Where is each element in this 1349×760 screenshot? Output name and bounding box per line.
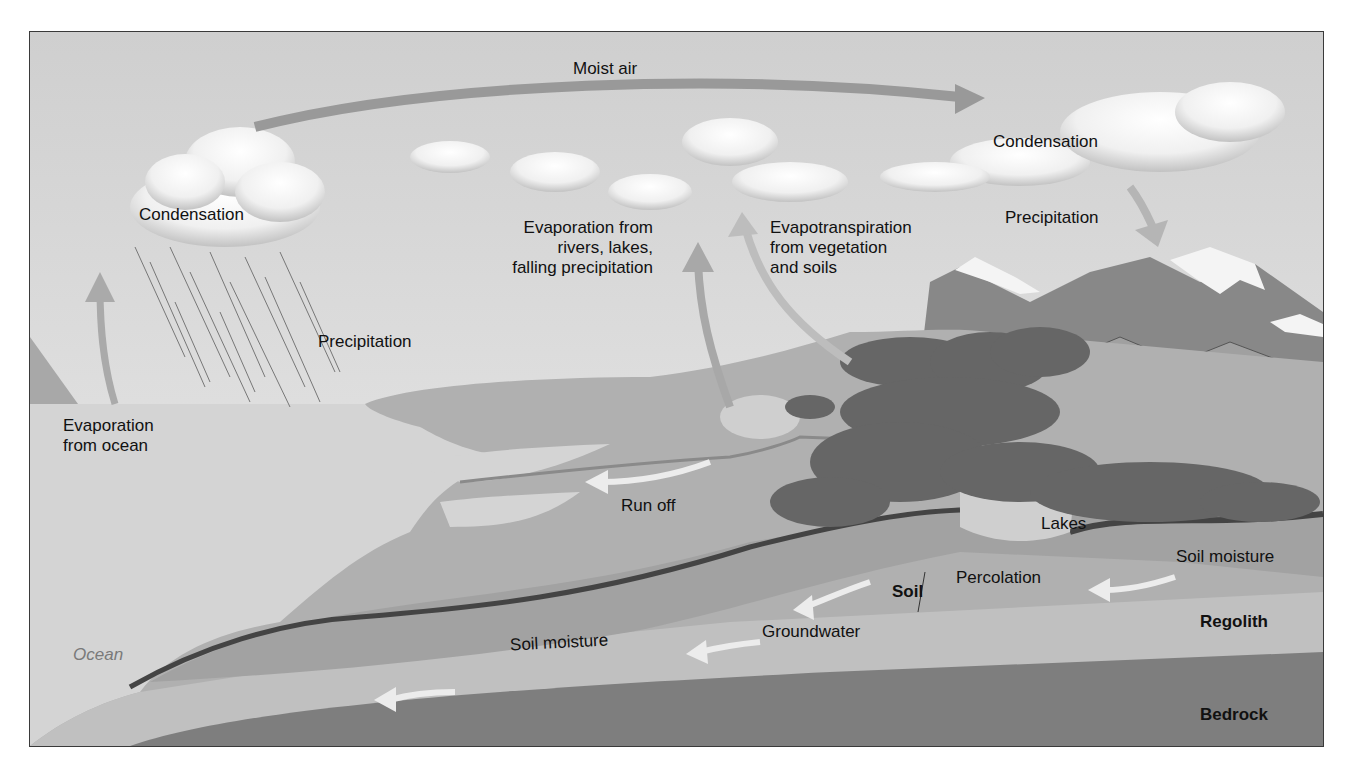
label-run-off: Run off: [621, 496, 676, 516]
water-cycle-diagram: Moist air Condensation Condensation Prec…: [29, 31, 1324, 747]
label-ocean: Ocean: [73, 645, 123, 665]
label-groundwater: Groundwater: [762, 622, 860, 642]
diagram-artwork: [30, 32, 1323, 746]
label-evaporation-ocean-2: from ocean: [63, 436, 148, 456]
label-condensation-left: Condensation: [139, 205, 244, 225]
label-regolith: Regolith: [1200, 612, 1268, 632]
label-lakes: Lakes: [1041, 514, 1086, 534]
label-precipitation-right: Precipitation: [1005, 208, 1099, 228]
label-soil: Soil: [892, 582, 923, 602]
label-evaporation-ocean-1: Evaporation: [63, 416, 154, 436]
label-percolation: Percolation: [956, 568, 1041, 588]
label-evaporation-rivers-3: falling precipitation: [450, 258, 653, 278]
label-evaporation-rivers-1: Evaporation from: [450, 218, 653, 238]
label-bedrock: Bedrock: [1200, 705, 1268, 725]
label-evapotranspiration-3: and soils: [770, 258, 837, 278]
label-evapotranspiration-2: from vegetation: [770, 238, 887, 258]
label-moist-air: Moist air: [573, 59, 637, 79]
label-evaporation-rivers-2: rivers, lakes,: [450, 238, 653, 258]
label-condensation-right: Condensation: [993, 132, 1098, 152]
label-evapotranspiration-1: Evapotranspiration: [770, 218, 912, 238]
label-soil-moisture-right: Soil moisture: [1176, 547, 1274, 567]
label-precipitation-left: Precipitation: [318, 332, 412, 352]
